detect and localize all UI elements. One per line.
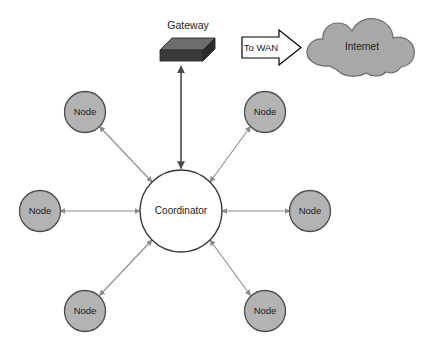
node-label: Node	[254, 106, 277, 117]
node-right: Node	[290, 191, 331, 232]
gateway-device	[160, 38, 215, 61]
coordinator-label: Coordinator	[155, 205, 208, 216]
internet-cloud: Internet	[307, 19, 414, 77]
link-coordinator-node-top-left	[100, 127, 153, 183]
node-bottom-right: Node	[245, 291, 286, 332]
to-wan-arrow: To WAN	[242, 30, 301, 65]
link-coordinator-node-bottom-right	[210, 240, 251, 296]
star-network-diagram: Gateway To WAN Internet Coordinator Node…	[0, 0, 422, 355]
node-label: Node	[74, 305, 97, 316]
node-label: Node	[29, 205, 52, 216]
node-top-left: Node	[65, 92, 106, 133]
node-bottom-left: Node	[65, 291, 106, 332]
gateway-label: Gateway	[167, 19, 209, 31]
to-wan-label: To WAN	[244, 42, 279, 53]
internet-label: Internet	[345, 41, 379, 52]
link-coordinator-node-top-right	[210, 127, 251, 183]
node-label: Node	[299, 205, 322, 216]
gateway-front-face	[160, 50, 203, 61]
node-left: Node	[20, 191, 61, 232]
coordinator-hub: Coordinator	[140, 170, 222, 252]
node-label: Node	[254, 305, 277, 316]
node-top-right: Node	[245, 92, 286, 133]
figure-caption	[8, 345, 238, 355]
diagram-canvas: Gateway To WAN Internet Coordinator Node…	[0, 0, 422, 355]
link-coordinator-node-bottom-left	[100, 240, 153, 296]
node-label: Node	[74, 106, 97, 117]
